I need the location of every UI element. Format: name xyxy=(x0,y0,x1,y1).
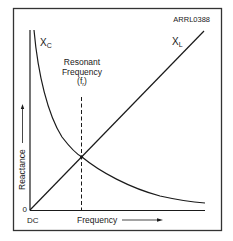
inductive-reactance-line xyxy=(30,31,204,210)
resonant-label-line3: (fr) xyxy=(77,76,87,87)
xl-label: XL xyxy=(172,36,183,48)
x-axis-label: Frequency xyxy=(77,215,118,225)
resonant-label-line1: Resonant xyxy=(64,57,101,67)
figure-id: ARRL0388 xyxy=(173,15,210,24)
origin-zero-label: 0 xyxy=(23,205,28,214)
resonant-label-line2: Frequency xyxy=(62,67,103,77)
y-axis-arrow-head xyxy=(21,104,24,109)
resonance-point xyxy=(80,155,83,158)
y-axis-label: Reactance xyxy=(17,149,27,190)
xc-label: XC xyxy=(40,37,52,49)
origin-dc-label: DC xyxy=(27,216,39,225)
resonance-diagram: ARRL0388 XC XL Resonant Frequency (fr) R… xyxy=(0,0,233,241)
x-axis-arrow-head xyxy=(157,218,163,221)
